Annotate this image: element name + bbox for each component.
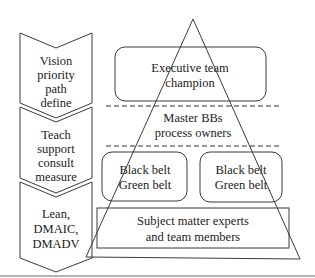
pyramid: Executive team champion Master BBs proce… xyxy=(86,19,300,259)
pyramid-base xyxy=(86,257,300,259)
chevron-lean-line-1: Lean, xyxy=(42,207,70,221)
chevron-teach-line-4: measure xyxy=(35,170,77,184)
belt-left-line-2: Green belt xyxy=(119,178,172,192)
chevron-vision-line-2: priority xyxy=(37,68,75,82)
chevron-vision-line-3: path xyxy=(45,82,67,96)
chevron-vision-line-1: Vision xyxy=(40,54,73,68)
executive-line-2: champion xyxy=(165,76,215,90)
belt-right-line-2: Green belt xyxy=(215,178,268,192)
chevron-lean-line-3: DMADV xyxy=(32,237,79,251)
chevron-column: Vision priority path define Teach suppor… xyxy=(20,33,92,272)
sme-line-1: Subject matter experts xyxy=(137,214,249,228)
belt-right-line-1: Black belt xyxy=(215,163,267,177)
master-line-2: process owners xyxy=(155,126,232,140)
chevron-teach-line-3: consult xyxy=(38,156,75,170)
chevron-teach-line-1: Teach xyxy=(41,128,71,142)
chevron-lean-line-2: DMAIC, xyxy=(34,222,79,236)
master-line-1: Master BBs xyxy=(163,111,223,125)
six-sigma-diagram: Vision priority path define Teach suppor… xyxy=(0,0,315,278)
belt-box-right xyxy=(200,152,282,202)
chevron-vision-line-4: define xyxy=(40,96,72,110)
chevron-teach-line-2: support xyxy=(37,142,75,156)
sme-line-2: and team members xyxy=(146,230,241,244)
